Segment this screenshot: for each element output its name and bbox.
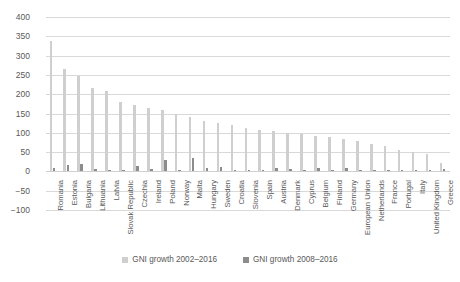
bar-series-a [314, 136, 317, 172]
bar-series-a [175, 114, 178, 171]
bar-series-b [345, 168, 348, 171]
legend-swatch-icon [243, 257, 249, 263]
x-axis-label: Slovenia [252, 180, 260, 209]
bar-series-b [220, 167, 223, 171]
x-axis-label: Portugal [405, 180, 413, 208]
x-axis-label: Sweden [224, 180, 232, 207]
bar-series-b [387, 170, 390, 172]
bar-series-b [289, 169, 292, 171]
bar-series-b [164, 160, 167, 172]
bar-series-a [77, 76, 80, 171]
bar-series-a [342, 139, 345, 171]
bar-series-b [415, 170, 418, 171]
bar-series-a [217, 123, 220, 172]
x-axis-label: Netherlands [378, 180, 386, 221]
bar-series-b [53, 168, 56, 171]
bar-series-b [359, 170, 362, 172]
bar-series-b [443, 169, 446, 171]
legend-swatch-icon [122, 257, 128, 263]
bar-series-b [248, 170, 251, 172]
x-axis-label: Czechia [141, 180, 149, 207]
bar-series-a [398, 150, 401, 172]
bar-series-b [429, 170, 432, 172]
bar-series-a [426, 154, 429, 171]
bar-series-b [108, 170, 111, 172]
bar-series-b [67, 165, 70, 171]
bar-series-a [370, 144, 373, 172]
bar-series-b [317, 168, 320, 171]
bar-series-a [105, 91, 108, 172]
bar-series-a [50, 41, 53, 171]
bar-series-b [206, 168, 209, 171]
chart-legend: GNI growth 2002–2016GNI growth 2008–2016 [0, 256, 460, 264]
bar-series-b [178, 170, 181, 172]
x-axis-category-labels: RomaniaEstoniaBulgariaLithuaniaLatviaSlo… [46, 180, 450, 250]
bar-series-b [331, 170, 334, 172]
y-axis-tick-label: 100 [0, 129, 30, 138]
bar-series-a [356, 141, 359, 171]
x-axis-label: Latvia [113, 180, 121, 200]
bar-series-b [234, 170, 237, 171]
legend-item[interactable]: GNI growth 2002–2016 [122, 256, 217, 264]
y-axis-tick-label: 350 [0, 32, 30, 41]
bar-series-a [412, 152, 415, 171]
y-axis-tick-label: 150 [0, 110, 30, 119]
x-axis-label: Estonia [71, 180, 79, 205]
bar-series-b [122, 170, 125, 171]
x-axis-label: Denmark [294, 180, 302, 211]
bar-series-a [300, 134, 303, 171]
x-axis-label: Malta [196, 180, 204, 199]
x-axis-label: Austria [280, 180, 288, 204]
x-axis-label: Germany [350, 180, 358, 211]
x-axis-label: Cyprus [308, 180, 316, 204]
bar-series-a [328, 137, 331, 171]
x-axis-label: Lithuania [99, 180, 107, 211]
bar-series-a [258, 130, 261, 172]
y-axis-tick-label: 200 [0, 90, 30, 99]
bar-series-b [275, 168, 278, 171]
legend-label: GNI growth 2002–2016 [132, 256, 217, 264]
bar-series-a [245, 128, 248, 172]
bar-series-b [373, 170, 376, 172]
bar-series-a [203, 121, 206, 172]
x-axis-label: Poland [169, 180, 177, 204]
x-axis-label: Norway [183, 180, 191, 206]
y-axis-tick-label: 300 [0, 52, 30, 61]
bar-series-b [192, 158, 195, 172]
bar-series-b [150, 169, 153, 171]
gni-growth-bar-chart: 400350300250200150100500−50−100 RomaniaE… [0, 0, 460, 282]
bar-series-b [80, 164, 83, 171]
y-axis-tick-label: 0 [0, 167, 30, 176]
x-axis-label: Spain [266, 180, 274, 199]
x-axis-label: Finland [336, 180, 344, 205]
x-axis-label: European Union [364, 180, 372, 235]
x-axis-label: Slovak Republic [127, 180, 135, 234]
y-axis-tick-label: 250 [0, 71, 30, 80]
x-axis-label: Bulgaria [85, 180, 93, 208]
bar-series-a [63, 69, 66, 171]
bar-series-b [262, 170, 265, 171]
x-axis-label: United Kingdom [433, 180, 441, 234]
bar-series-a [384, 146, 387, 171]
legend-item[interactable]: GNI growth 2008–2016 [243, 256, 338, 264]
bar-series-b [401, 170, 404, 171]
x-axis-label: France [391, 180, 399, 204]
y-axis-tick-label: 50 [0, 148, 30, 157]
bar-series-a [147, 108, 150, 172]
x-axis-label: Italy [419, 180, 427, 194]
legend-label: GNI growth 2008–2016 [253, 256, 338, 264]
x-axis-label: Romania [57, 180, 65, 210]
bar-series-b [136, 166, 139, 171]
bar-series-a [231, 125, 234, 171]
x-axis-label: Croatia [238, 180, 246, 204]
bar-series-a [286, 133, 289, 172]
bar-series-b [303, 170, 306, 171]
bar-series-a [272, 131, 275, 171]
bar-series-a [133, 105, 136, 171]
x-axis-label: Greece [447, 180, 455, 205]
x-axis-label: Ireland [155, 180, 163, 203]
y-axis-tick-label: 400 [0, 13, 30, 22]
y-axis-tick-label: −50 [0, 187, 30, 196]
bar-series-a [119, 102, 122, 171]
x-axis-label: Hungary [210, 180, 218, 209]
